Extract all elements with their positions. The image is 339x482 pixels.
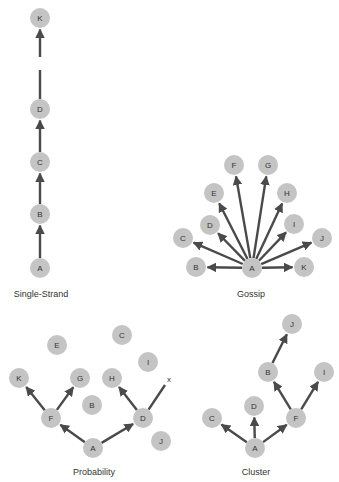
gossip-node-a: A: [242, 258, 262, 278]
node-label: E: [54, 341, 59, 350]
gossip-caption: Gossip: [237, 289, 265, 299]
cluster-node-j: J: [282, 314, 302, 334]
node-label: G: [77, 374, 83, 383]
probability-edge: [57, 387, 73, 410]
node-label: F: [294, 414, 299, 423]
node-label: K: [16, 374, 22, 383]
node-label: F: [49, 414, 54, 423]
cluster-node-f: F: [286, 408, 306, 428]
single-strand-node-b: B: [30, 204, 50, 224]
cluster-edge: [263, 425, 287, 442]
probability-nodes: ECIKGHBFDAJ: [9, 325, 171, 458]
node-label: G: [265, 161, 271, 170]
node-label: A: [37, 264, 43, 273]
probability-node-j: J: [151, 431, 171, 451]
gossip-nodes: ABCDEFGHIJK: [173, 155, 332, 278]
probability-node-g: G: [70, 368, 90, 388]
single-strand-node-c: C: [30, 152, 50, 172]
node-label: E: [211, 189, 216, 198]
cluster-node-i: I: [314, 362, 334, 382]
cluster-edges: [221, 334, 318, 442]
node-label: D: [207, 221, 213, 230]
probability-x-mark: x: [167, 375, 171, 384]
probability-node-d: D: [133, 408, 153, 428]
gossip-edge: [262, 267, 293, 268]
probability-node-k: K: [9, 368, 29, 388]
node-label: D: [251, 402, 257, 411]
gossip-node-d: D: [200, 215, 220, 235]
node-label: F: [232, 161, 237, 170]
gossip-edge: [236, 176, 250, 258]
cluster-edge: [301, 382, 318, 410]
single-strand-caption: Single-Strand: [14, 289, 69, 299]
probability-node-i: I: [138, 352, 158, 372]
node-label: J: [159, 437, 163, 446]
gossip-edge: [254, 176, 267, 258]
gossip-node-h: H: [277, 183, 297, 203]
probability-node-f: F: [41, 408, 61, 428]
cluster-edge: [274, 382, 291, 410]
cluster-caption: Cluster: [242, 467, 271, 477]
node-label: C: [37, 158, 43, 167]
network-diagrams-canvas: KDCBAABCDEFGHIJKECIKGHBFDAJJBIDCFA Singl…: [0, 0, 339, 482]
gossip-edge: [207, 267, 242, 268]
node-label: K: [37, 14, 43, 23]
cluster-node-d: D: [244, 396, 264, 416]
node-label: I: [293, 220, 295, 229]
node-label: B: [89, 401, 94, 410]
node-label: I: [147, 358, 149, 367]
node-label: J: [320, 234, 324, 243]
probability-node-c: C: [112, 325, 132, 345]
node-label: K: [301, 263, 307, 272]
node-label: C: [209, 414, 215, 423]
gossip-node-e: E: [204, 183, 224, 203]
gossip-node-j: J: [312, 228, 332, 248]
gossip-node-g: G: [258, 155, 278, 175]
node-label: B: [37, 210, 42, 219]
probability-edge: [119, 387, 137, 410]
cluster-node-a: A: [245, 438, 265, 458]
node-label: A: [249, 264, 255, 273]
node-label: H: [109, 374, 115, 383]
probability-caption: Probability: [73, 467, 116, 477]
node-label: A: [90, 444, 96, 453]
single-strand-node-a: A: [30, 258, 50, 278]
probability-node-a: A: [83, 438, 103, 458]
probability-node-e: E: [47, 335, 67, 355]
edges-layer: [26, 30, 318, 443]
node-label: B: [193, 263, 198, 272]
probability-edge: [26, 387, 45, 410]
node-label: C: [119, 331, 125, 340]
gossip-node-c: C: [173, 228, 193, 248]
node-label: H: [284, 189, 290, 198]
node-label: D: [140, 414, 146, 423]
captions-layer: Single-StrandGossipxProbabilityCluster: [14, 289, 271, 477]
node-label: D: [37, 105, 43, 114]
single-strand-node-d: D: [30, 99, 50, 119]
node-label: I: [323, 368, 325, 377]
node-label: A: [252, 444, 258, 453]
probability-edge: [60, 425, 85, 443]
node-label: J: [290, 320, 294, 329]
gossip-node-k: K: [294, 257, 314, 277]
cluster-edge: [221, 425, 246, 443]
node-label: B: [265, 368, 270, 377]
gossip-node-i: I: [284, 214, 304, 234]
gossip-node-f: F: [224, 155, 244, 175]
cluster-node-c: C: [202, 408, 222, 428]
cluster-edge: [272, 334, 286, 363]
probability-node-h: H: [102, 368, 122, 388]
cluster-node-b: B: [258, 362, 278, 382]
probability-node-b: B: [82, 395, 102, 415]
probability-edge: [102, 424, 134, 443]
gossip-node-b: B: [186, 257, 206, 277]
node-label: C: [180, 234, 186, 243]
probability-edge: [149, 385, 165, 410]
single-strand-node-k: K: [30, 8, 50, 28]
